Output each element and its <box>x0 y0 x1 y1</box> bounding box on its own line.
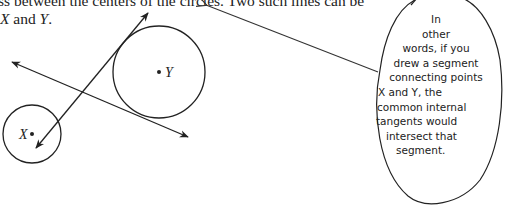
note-line: In <box>374 12 498 27</box>
note-line: X and Y, the <box>374 85 498 100</box>
tangent-line-2 <box>36 13 148 148</box>
callout-tick <box>411 0 418 5</box>
note-line: drew a segment <box>374 56 498 71</box>
note-line: common internal <box>374 100 498 115</box>
tangent-line-1 <box>12 62 188 137</box>
label-y: Y <box>165 65 175 80</box>
note-line: intersect that <box>374 129 498 144</box>
center-x-dot <box>30 132 34 136</box>
center-y-dot <box>157 70 161 74</box>
handwritten-note: In other words, if you drew a segment co… <box>374 12 498 158</box>
note-line: segment. <box>374 143 498 158</box>
note-line: connecting points <box>374 70 498 85</box>
note-line: tangents would <box>374 114 498 129</box>
note-line: words, if you <box>374 41 498 56</box>
note-line: other <box>374 27 498 42</box>
label-x: X <box>18 127 28 142</box>
callout-arrow <box>206 5 378 72</box>
